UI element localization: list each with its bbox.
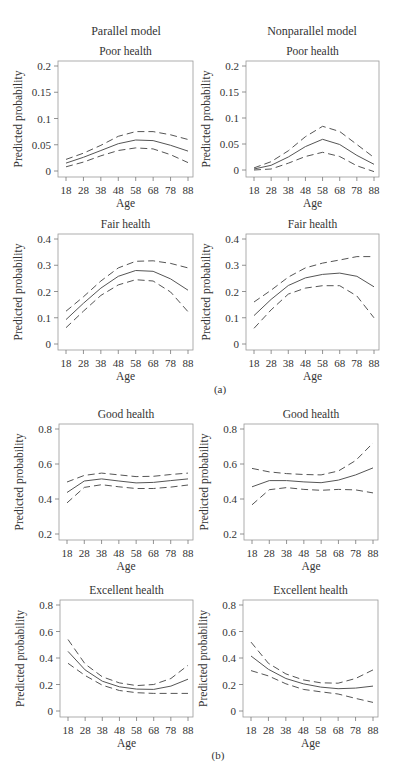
x-tick-label: 78	[350, 724, 362, 736]
chart-panel-nonparallel-good: Good health0.20.40.60.81828384858687888A…	[198, 408, 379, 573]
series-estimate	[67, 479, 188, 493]
series-upper-ci	[252, 443, 373, 475]
chart-panel-nonparallel-excellent: Excellent health00.20.40.60.818283848586…	[197, 584, 379, 750]
x-tick-label: 18	[61, 184, 73, 196]
y-tick-label: 0.2	[39, 679, 53, 691]
y-tick-label: 0.2	[38, 528, 52, 540]
panel-title: Fair health	[288, 218, 338, 230]
x-tick-label: 68	[148, 357, 160, 369]
y-tick-label: 0.4	[225, 233, 239, 245]
y-tick-label: 0.1	[225, 112, 239, 124]
x-tick-label: 28	[266, 357, 278, 369]
y-axis-label: Predicted probability	[197, 610, 210, 707]
x-tick-label: 38	[95, 184, 107, 196]
y-tick-label: 0	[234, 338, 240, 350]
x-tick-label: 78	[351, 184, 363, 196]
x-axis-label: Age	[301, 737, 320, 750]
y-tick-label: 0.8	[223, 423, 237, 435]
chart-panel-parallel-fair: Fair health00.10.20.30.41828384858687888…	[12, 218, 194, 383]
x-axis-label: Age	[116, 560, 135, 573]
y-tick-label: 0.6	[39, 626, 53, 638]
y-axis-label: Predicted probability	[200, 243, 213, 340]
x-tick-label: 48	[300, 184, 312, 196]
panel-title: Excellent health	[273, 584, 348, 596]
x-tick-label: 38	[283, 184, 295, 196]
x-tick-label: 18	[249, 357, 261, 369]
y-tick-label: 0.4	[222, 652, 236, 664]
chart-grid: Poor health00.050.10.150.218283848586878…	[0, 0, 400, 780]
x-tick-label: 18	[63, 724, 75, 736]
x-tick-label: 88	[183, 724, 195, 736]
y-axis-label: Predicted probability	[14, 610, 27, 707]
x-tick-label: 78	[350, 547, 362, 559]
x-tick-label: 48	[113, 184, 125, 196]
x-axis-label: Age	[116, 197, 135, 210]
x-tick-label: 58	[315, 724, 327, 736]
x-tick-label: 28	[266, 184, 278, 196]
panel-title: Good health	[98, 408, 155, 420]
x-axis-label: Age	[116, 370, 135, 383]
x-tick-label: 68	[334, 357, 346, 369]
chart-panel-parallel-excellent: Excellent health00.20.40.60.818283848586…	[14, 584, 194, 750]
x-tick-label: 58	[131, 547, 143, 559]
x-tick-label: 48	[113, 357, 125, 369]
chart-panel-parallel-poor: Poor health00.050.10.150.218283848586878…	[12, 45, 194, 210]
y-tick-label: 0.4	[37, 233, 51, 245]
x-tick-label: 78	[351, 357, 363, 369]
y-tick-label: 0	[46, 338, 52, 350]
plot-frame	[58, 61, 193, 177]
series-lower-ci	[67, 485, 188, 503]
y-axis-label: Predicted probability	[200, 70, 213, 167]
plot-frame	[243, 600, 378, 717]
x-tick-label: 58	[130, 357, 142, 369]
panel-title: Excellent health	[89, 584, 164, 596]
panel-title: Good health	[283, 408, 340, 420]
y-tick-label: 0	[231, 705, 237, 717]
y-tick-label: 0.2	[37, 60, 51, 72]
x-tick-label: 38	[280, 724, 292, 736]
y-tick-label: 0.3	[225, 259, 239, 271]
x-tick-label: 48	[298, 724, 310, 736]
x-tick-label: 68	[148, 724, 160, 736]
x-tick-label: 88	[368, 724, 380, 736]
y-tick-label: 0.4	[39, 652, 53, 664]
y-tick-label: 0.1	[37, 113, 51, 125]
x-tick-label: 18	[246, 724, 258, 736]
panel-title: Fair health	[101, 218, 151, 230]
x-tick-label: 48	[114, 724, 126, 736]
x-tick-label: 48	[300, 357, 312, 369]
x-tick-label: 68	[148, 547, 160, 559]
y-tick-label: 0.05	[32, 139, 52, 151]
y-tick-label: 0	[46, 165, 52, 177]
x-tick-label: 88	[369, 357, 381, 369]
x-tick-label: 68	[333, 547, 345, 559]
chart-panel-nonparallel-fair: Fair health00.10.20.30.41828384858687888…	[200, 218, 380, 383]
y-tick-label: 0.4	[223, 493, 237, 505]
y-tick-label: 0	[234, 164, 240, 176]
x-tick-label: 88	[183, 184, 195, 196]
x-tick-label: 28	[263, 724, 275, 736]
y-axis-label: Predicted probability	[13, 433, 26, 530]
y-axis-label: Predicted probability	[12, 70, 25, 167]
y-tick-label: 0.8	[38, 423, 52, 435]
x-tick-label: 58	[317, 357, 329, 369]
x-tick-label: 78	[165, 724, 177, 736]
x-tick-label: 58	[317, 184, 329, 196]
series-lower-ci	[254, 286, 374, 329]
x-tick-label: 58	[316, 547, 328, 559]
series-estimate	[66, 271, 188, 320]
x-tick-label: 78	[165, 357, 177, 369]
x-tick-label: 78	[165, 547, 177, 559]
series-upper-ci	[68, 640, 188, 686]
x-tick-label: 38	[281, 547, 293, 559]
y-tick-label: 0.4	[38, 493, 52, 505]
y-tick-label: 0.15	[220, 86, 240, 98]
y-tick-label: 0.6	[223, 458, 237, 470]
y-axis-label: Predicted probability	[12, 243, 25, 340]
chart-panel-nonparallel-poor: Poor health00.050.10.150.218283848586878…	[200, 45, 380, 210]
plot-frame	[246, 61, 379, 177]
y-axis-label: Predicted probability	[198, 433, 211, 530]
y-tick-label: 0.3	[37, 259, 51, 271]
plot-frame	[60, 600, 193, 717]
series-estimate	[68, 651, 188, 689]
